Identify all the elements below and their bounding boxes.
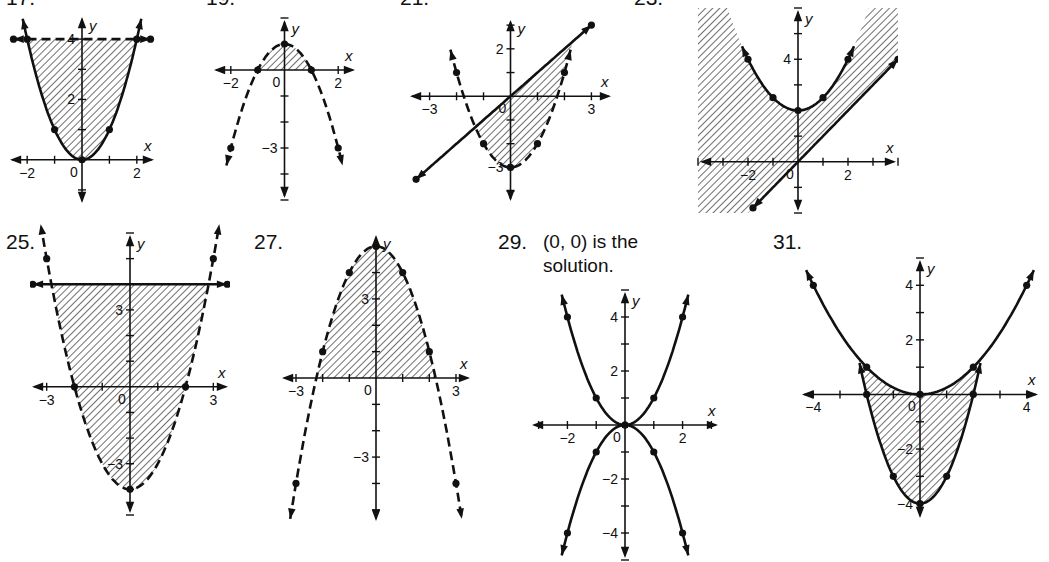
data-point — [335, 144, 342, 151]
svg-text:−4: −4 — [602, 525, 618, 541]
svg-text:−4: −4 — [897, 496, 913, 512]
svg-text:0: 0 — [118, 391, 126, 407]
data-point — [564, 529, 571, 536]
svg-text:0: 0 — [908, 398, 916, 414]
data-point — [453, 69, 460, 76]
data-point — [650, 448, 657, 455]
data-point — [593, 448, 600, 455]
svg-text:y: y — [517, 20, 527, 37]
svg-text:−2: −2 — [559, 430, 575, 446]
svg-text:−2: −2 — [740, 167, 756, 183]
problem-number-29: 29. — [498, 230, 527, 254]
svg-text:0: 0 — [364, 382, 372, 398]
problem-number-23: 23. — [634, 0, 663, 10]
svg-text:2: 2 — [905, 332, 913, 348]
svg-text:y: y — [382, 235, 392, 252]
svg-text:−3: −3 — [107, 456, 123, 472]
svg-text:−2: −2 — [223, 75, 239, 91]
data-point — [679, 313, 686, 320]
svg-text:−3: −3 — [422, 101, 438, 117]
problem-number-27: 27. — [254, 230, 283, 254]
graph-25: −3033−3xy — [30, 233, 230, 515]
graph-19: −202−3xy — [212, 18, 357, 200]
svg-text:2: 2 — [67, 91, 75, 107]
data-point — [744, 56, 751, 63]
svg-text:x: x — [1027, 371, 1036, 388]
svg-text:x: x — [600, 73, 609, 90]
svg-text:3: 3 — [209, 392, 217, 408]
svg-text:0: 0 — [273, 74, 281, 90]
svg-text:2: 2 — [496, 41, 504, 57]
svg-text:−3: −3 — [39, 392, 55, 408]
svg-text:y: y — [804, 10, 814, 27]
svg-text:y: y — [88, 17, 98, 34]
svg-text:2: 2 — [334, 75, 342, 91]
svg-text:2: 2 — [133, 165, 141, 181]
data-point — [564, 313, 571, 320]
svg-text:0: 0 — [70, 164, 78, 180]
data-point — [810, 282, 817, 289]
svg-text:2: 2 — [844, 167, 852, 183]
svg-text:3: 3 — [361, 291, 369, 307]
data-point — [819, 94, 826, 101]
svg-text:−3: −3 — [262, 140, 278, 156]
svg-text:x: x — [459, 355, 468, 372]
data-point — [480, 140, 487, 147]
data-point — [561, 69, 568, 76]
svg-text:x: x — [143, 137, 152, 154]
data-point — [1023, 282, 1030, 289]
data-point — [890, 473, 897, 480]
svg-text:0: 0 — [613, 429, 621, 445]
svg-text:4: 4 — [610, 309, 618, 325]
data-point — [844, 56, 851, 63]
problem-number-19: 19. — [206, 0, 235, 10]
svg-text:x: x — [344, 47, 353, 64]
svg-text:−3: −3 — [353, 449, 369, 465]
data-point — [346, 269, 353, 276]
svg-text:y: y — [926, 260, 936, 277]
svg-text:−3: −3 — [288, 383, 304, 399]
svg-text:3: 3 — [588, 101, 596, 117]
svg-text:−2: −2 — [897, 441, 913, 457]
svg-text:−4: −4 — [805, 399, 821, 415]
svg-text:3: 3 — [115, 302, 123, 318]
data-point — [51, 126, 58, 133]
problem-number-17: 17. — [6, 0, 35, 10]
data-point — [593, 394, 600, 401]
data-point — [106, 126, 113, 133]
data-point — [769, 94, 776, 101]
svg-text:4: 4 — [1023, 399, 1031, 415]
graph-29: −20242−2−4xy — [530, 290, 720, 560]
graph-27: −3033−3xy — [280, 233, 472, 523]
svg-text:4: 4 — [783, 51, 791, 67]
svg-text:y: y — [136, 235, 146, 252]
data-point — [943, 473, 950, 480]
shaded-region — [475, 42, 572, 168]
data-point — [43, 255, 50, 262]
svg-text:4: 4 — [67, 31, 75, 47]
data-point — [534, 140, 541, 147]
graph-23: −2024xy — [698, 8, 898, 213]
svg-text:2: 2 — [610, 363, 618, 379]
svg-text:−3: −3 — [488, 159, 504, 175]
svg-text:−2: −2 — [602, 471, 618, 487]
data-point — [650, 394, 657, 401]
svg-text:x: x — [217, 364, 226, 381]
svg-text:0: 0 — [499, 100, 507, 116]
data-point — [426, 348, 433, 355]
data-point — [227, 144, 234, 151]
svg-text:−2: −2 — [19, 165, 35, 181]
data-point — [863, 364, 870, 371]
graph-17: −20224xy — [8, 15, 156, 205]
data-point — [399, 269, 406, 276]
data-point — [679, 529, 686, 536]
data-point — [970, 364, 977, 371]
problem-number-31: 31. — [773, 230, 802, 254]
graph-21: −3032−3xy — [408, 18, 613, 203]
svg-text:x: x — [885, 139, 894, 156]
svg-text:3: 3 — [452, 383, 460, 399]
svg-text:y: y — [291, 20, 301, 37]
problem-number-21: 21. — [400, 0, 429, 10]
data-point — [319, 348, 326, 355]
svg-text:0: 0 — [786, 166, 794, 182]
